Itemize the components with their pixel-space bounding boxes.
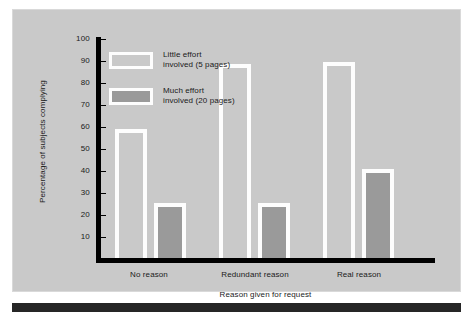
legend-swatch-little-effort bbox=[109, 52, 153, 69]
y-tick-label-90: 90 bbox=[64, 57, 90, 65]
y-tick-label-40: 40 bbox=[64, 167, 90, 175]
y-tick-label-60: 60 bbox=[64, 123, 90, 131]
bar-redundant-reason-much-effort bbox=[258, 203, 290, 258]
y-tick-mark-10 bbox=[101, 237, 106, 238]
y-tick-mark-80 bbox=[101, 83, 106, 84]
legend-label-little-effort: Little effort involved (5 pages) bbox=[163, 50, 230, 70]
legend-label-much-effort: Much effort involved (20 pages) bbox=[163, 86, 235, 106]
y-tick-mark-20 bbox=[101, 215, 106, 216]
y-tick-label-30: 30 bbox=[64, 189, 90, 197]
legend-label-little-effort-line1: Little effort bbox=[163, 50, 230, 60]
y-tick-label-70: 70 bbox=[64, 101, 90, 109]
x-tick-label-real-reason: Real reason bbox=[316, 270, 402, 279]
bar-no-reason-much-effort bbox=[154, 203, 186, 258]
bottom-rule bbox=[12, 303, 461, 312]
y-tick-label-50: 50 bbox=[64, 145, 90, 153]
y-tick-mark-30 bbox=[101, 193, 106, 194]
legend-label-much-effort-line1: Much effort bbox=[163, 86, 235, 96]
legend-label-little-effort-line2: involved (5 pages) bbox=[163, 60, 230, 70]
y-tick-mark-100 bbox=[101, 39, 106, 40]
bar-real-reason-little-effort bbox=[323, 62, 355, 258]
x-axis-title: Reason given for request bbox=[96, 290, 435, 299]
y-tick-mark-40 bbox=[101, 171, 106, 172]
y-axis-line bbox=[96, 37, 101, 263]
chart-plate: 100 90 80 70 60 50 40 30 20 10 Percentag… bbox=[12, 9, 461, 292]
y-tick-label-80: 80 bbox=[64, 79, 90, 87]
chart-figure: 100 90 80 70 60 50 40 30 20 10 Percentag… bbox=[0, 0, 474, 321]
y-tick-mark-70 bbox=[101, 105, 106, 106]
bar-no-reason-little-effort bbox=[115, 129, 147, 258]
y-tick-label-10: 10 bbox=[64, 233, 90, 241]
x-tick-label-no-reason: No reason bbox=[106, 270, 192, 279]
y-tick-mark-60 bbox=[101, 127, 106, 128]
legend-swatch-much-effort bbox=[109, 88, 153, 105]
y-tick-mark-90 bbox=[101, 61, 106, 62]
x-axis-line bbox=[96, 258, 435, 263]
y-tick-label-20: 20 bbox=[64, 211, 90, 219]
y-tick-label-100: 100 bbox=[64, 35, 90, 43]
legend-label-much-effort-line2: involved (20 pages) bbox=[163, 96, 235, 106]
x-tick-label-redundant-reason: Redundant reason bbox=[210, 270, 300, 279]
y-tick-mark-50 bbox=[101, 149, 106, 150]
y-axis-title: Percentage of subjects complying bbox=[38, 72, 47, 212]
bar-real-reason-much-effort bbox=[362, 169, 394, 258]
